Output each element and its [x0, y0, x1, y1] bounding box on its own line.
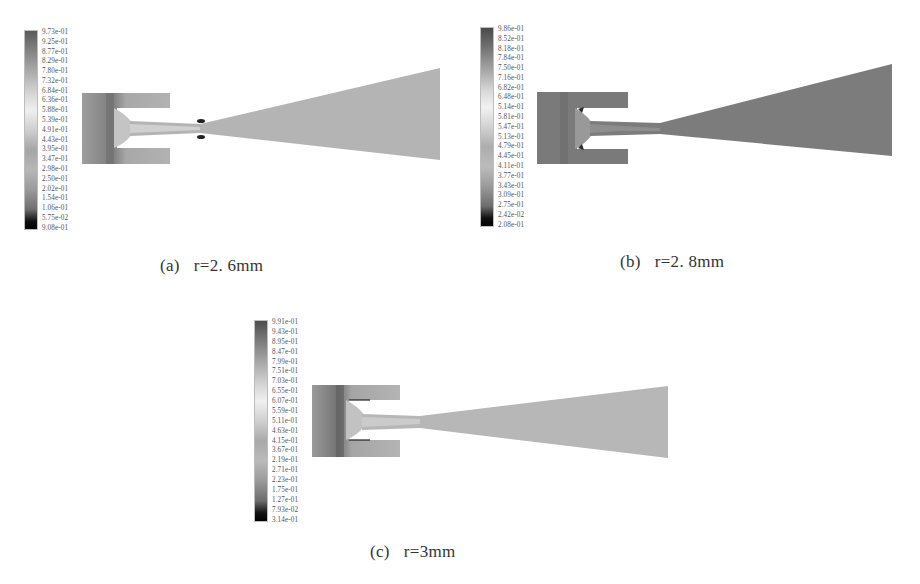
caption-a: (a)r=2. 6mm	[160, 256, 263, 276]
caption-value: r=2. 6mm	[194, 256, 264, 275]
caption-b: (b)r=2. 8mm	[620, 252, 724, 272]
ejector-contour-a	[0, 0, 460, 290]
panel-a: 9.73e-01 9.25e-01 8.77e-01 8.29e-01 7.80…	[0, 0, 460, 290]
caption-c: (c)r=3mm	[370, 542, 455, 562]
ejector-contour-b	[460, 0, 920, 290]
panel-c: 9.91e-01 9.43e-01 8.95e-01 8.47e-01 7.99…	[230, 290, 690, 584]
caption-label: (a)	[160, 256, 180, 276]
caption-value: r=3mm	[404, 542, 456, 561]
caption-value: r=2. 8mm	[655, 252, 725, 271]
caption-label: (b)	[620, 252, 641, 272]
panel-b: 9.86e-01 8.52e-01 8.18e-01 7.84e-01 7.50…	[460, 0, 920, 290]
caption-label: (c)	[370, 542, 390, 562]
ejector-contour-c	[230, 290, 690, 584]
